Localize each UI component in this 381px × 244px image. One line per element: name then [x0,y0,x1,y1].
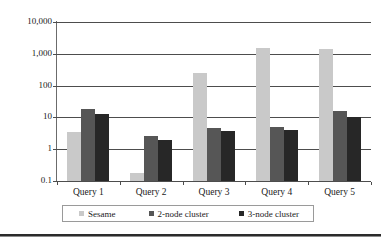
legend-item[interactable]: Sesame [79,209,116,219]
bar [207,128,221,181]
y-tick-label: 1 [0,144,52,153]
y-tick-label: 100 [0,81,52,90]
y-tick-label: 0.1 [0,176,52,185]
x-tick-mark [57,182,58,185]
chart-figure: 10,0001,0001001010.1 Query 1Query 2Query… [0,0,381,244]
bar [347,117,361,181]
bar-group [308,22,371,181]
bar-group [245,22,308,181]
legend-label: 2-node cluster [158,209,209,219]
bar [144,136,158,181]
plot-area [57,22,371,181]
x-axis-label: Query 1 [57,186,120,198]
legend-item[interactable]: 2-node cluster [149,209,209,219]
y-tick-label: 10,000 [0,17,52,26]
bar [81,109,95,181]
footer-rule-shadow [0,236,381,237]
chart-legend: Sesame2-node cluster3-node cluster [62,205,314,222]
bar-group [183,22,246,181]
bar [256,48,270,181]
bar-group [120,22,183,181]
bar [158,140,172,181]
legend-label: Sesame [88,209,116,219]
legend-label: 3-node cluster [248,209,299,219]
x-tick-mark [245,182,246,185]
bar [193,73,207,181]
bar [284,130,298,181]
bar [221,131,235,181]
legend-swatch-icon [239,211,244,216]
x-tick-mark [308,182,309,185]
legend-item[interactable]: 3-node cluster [239,209,299,219]
x-axis-label: Query 4 [245,186,308,198]
bar [333,111,347,181]
bar [95,114,109,181]
y-tick-label: 10 [0,112,52,121]
x-axis-label: Query 2 [120,186,183,198]
x-tick-mark [120,182,121,185]
x-axis-label: Query 3 [183,186,246,198]
y-tick-label: 1,000 [0,49,52,58]
legend-swatch-icon [149,211,154,216]
x-tick-mark [183,182,184,185]
x-axis-line [56,181,371,182]
bar [67,132,81,181]
bar [319,49,333,181]
x-axis-label: Query 5 [308,186,371,198]
bar [270,127,284,181]
x-tick-mark [371,182,372,185]
bar [130,173,144,181]
bar-group [57,22,120,181]
legend-swatch-icon [79,211,84,216]
